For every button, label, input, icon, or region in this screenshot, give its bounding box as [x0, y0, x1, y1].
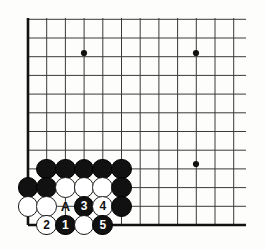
stone-move-number: 1	[62, 219, 69, 231]
black-stone[interactable]	[36, 159, 57, 180]
black-stone[interactable]	[18, 177, 39, 198]
stone-move-number: 4	[99, 200, 106, 212]
stone-layer: 34215A	[0, 0, 265, 250]
black-stone[interactable]	[111, 196, 132, 217]
stone-move-number: 5	[99, 219, 106, 231]
black-stone[interactable]	[111, 159, 132, 180]
black-stone[interactable]	[92, 159, 113, 180]
black-stone[interactable]	[36, 177, 57, 198]
white-stone-move-2[interactable]: 2	[36, 215, 57, 236]
go-board-diagram: 34215A	[0, 0, 265, 250]
stone-move-number: 3	[81, 200, 88, 212]
white-stone[interactable]	[55, 177, 76, 198]
white-stone-move-4[interactable]: 4	[92, 196, 113, 217]
black-stone-move-1[interactable]: 1	[55, 215, 76, 236]
white-stone[interactable]	[36, 196, 57, 217]
black-stone[interactable]	[111, 177, 132, 198]
black-stone-move-5[interactable]: 5	[92, 215, 113, 236]
black-stone[interactable]	[55, 159, 76, 180]
black-stone-move-3[interactable]: 3	[74, 196, 95, 217]
white-stone[interactable]	[18, 196, 39, 217]
white-stone[interactable]	[74, 177, 95, 198]
white-stone[interactable]	[74, 215, 95, 236]
point-label-a[interactable]: A	[55, 196, 76, 217]
white-stone[interactable]	[92, 177, 113, 198]
stone-move-number: 2	[43, 219, 50, 231]
black-stone[interactable]	[74, 159, 95, 180]
